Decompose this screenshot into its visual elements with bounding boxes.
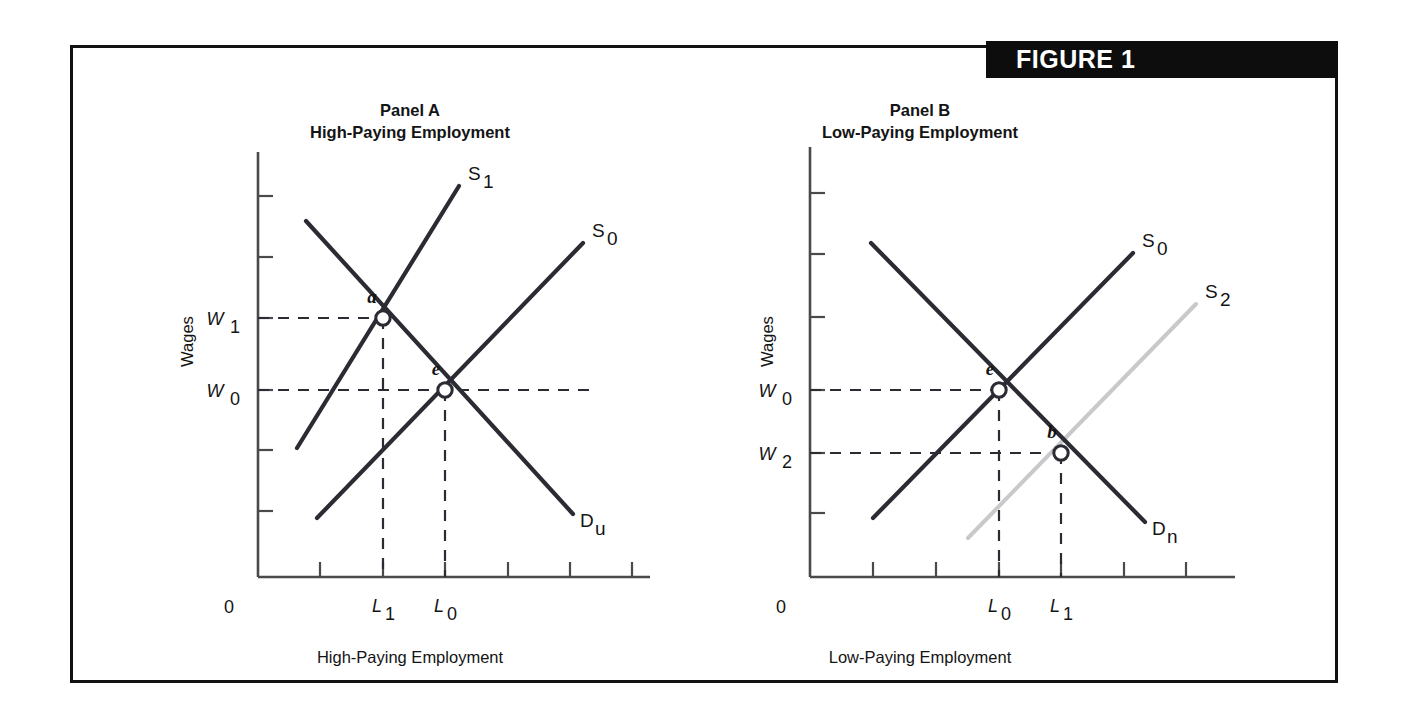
panel-b-curve-label-s0-sub: 0 [1157,238,1168,259]
panel-a-curve-label-s0: S 0 [592,220,618,249]
panel-a-curve-label-s0-base: S [592,220,605,241]
panel-b-curve-label-s2-base: S [1205,281,1218,302]
panel-b-point-b-label: b [1047,421,1057,442]
panel-b-origin-label: 0 [776,597,786,617]
figure-plot-area: a e S 1 S 0 D u W 1 W 0 [0,0,1405,718]
panel-b-l0-sub: 0 [1001,604,1011,624]
panel-a-point-e-marker [438,383,452,397]
panel-a-point-a-marker [376,311,390,325]
panel-a-w0-base: W [207,381,226,401]
panel-a-point-e-label: e [432,358,441,379]
panel-a-curve-label-s1: S 1 [468,163,494,192]
panel-a-x-tick-label-l0: L 0 [434,596,457,624]
panel-a-w0-sub: 0 [230,389,240,409]
panel-b-point-e-label: e [986,358,995,379]
panel-b-w0-sub: 0 [782,389,792,409]
panel-b-curve-label-dn-sub: n [1167,526,1178,547]
panel-b-w0-base: W [759,381,778,401]
panel-b-x-tick-label-l0: L 0 [988,596,1011,624]
panel-a-y-tick-label-w0: W 0 [207,381,241,409]
panel-b-y-tick-label-w2: W 2 [759,444,793,472]
panel-b-y-ticks [810,193,825,513]
panel-a-curve-label-du-sub: u [595,518,606,539]
panel-a-w1-sub: 1 [230,317,240,337]
panel-b-curve-label-dn: D n [1152,518,1178,547]
panel-a-l1-base: L [372,596,382,616]
panel-a-curve-label-s1-base: S [468,163,481,184]
panel-b-curve-label-dn-base: D [1152,518,1166,539]
panel-b-l0-base: L [988,596,998,616]
panel-a-curve-label-du: D u [580,510,606,539]
panel-a-origin-label: 0 [224,597,234,617]
panel-b-x-tick-label-l1: L 1 [1050,596,1073,624]
panel-a-curve-label-s1-sub: 1 [483,171,494,192]
panel-a-point-a-label: a [367,286,377,307]
panel-b-w2-base: W [759,444,778,464]
panel-a-y-ticks [258,196,273,511]
panel-a-l0-sub: 0 [447,604,457,624]
panel-b-curve-label-s2-sub: 2 [1220,289,1231,310]
panel-a-x-ticks [320,562,632,577]
panel-b-point-b-marker [1054,446,1068,460]
panel-b-curve-label-s2: S 2 [1205,281,1231,310]
panel-a-plot: a e S 1 S 0 D u W 1 W 0 [207,152,651,624]
panel-a-l1-sub: 1 [385,604,395,624]
panel-b-y-tick-label-w0: W 0 [759,381,793,409]
figure-root: FIGURE 1 Panel A High-Paying Employment … [0,0,1405,718]
panel-b-curve-label-s0: S 0 [1142,230,1168,259]
panel-b-x-ticks [873,562,1186,577]
panel-b-plot: e b S 0 S 2 D n W 0 W 2 [759,147,1236,624]
panel-b-point-e-marker [992,383,1006,397]
panel-a-x-tick-label-l1: L 1 [372,596,395,624]
panel-b-w2-sub: 2 [782,452,792,472]
panel-a-y-tick-label-w1: W 1 [207,309,241,337]
panel-a-l0-base: L [434,596,444,616]
panel-a-w1-base: W [207,309,226,329]
panel-b-curve-s2-faint [968,304,1196,538]
panel-b-l1-sub: 1 [1063,604,1073,624]
panel-a-curve-label-s0-sub: 0 [607,228,618,249]
panel-b-l1-base: L [1050,596,1060,616]
panel-b-curve-label-s0-base: S [1142,230,1155,251]
panel-a-curve-label-du-base: D [580,510,594,531]
